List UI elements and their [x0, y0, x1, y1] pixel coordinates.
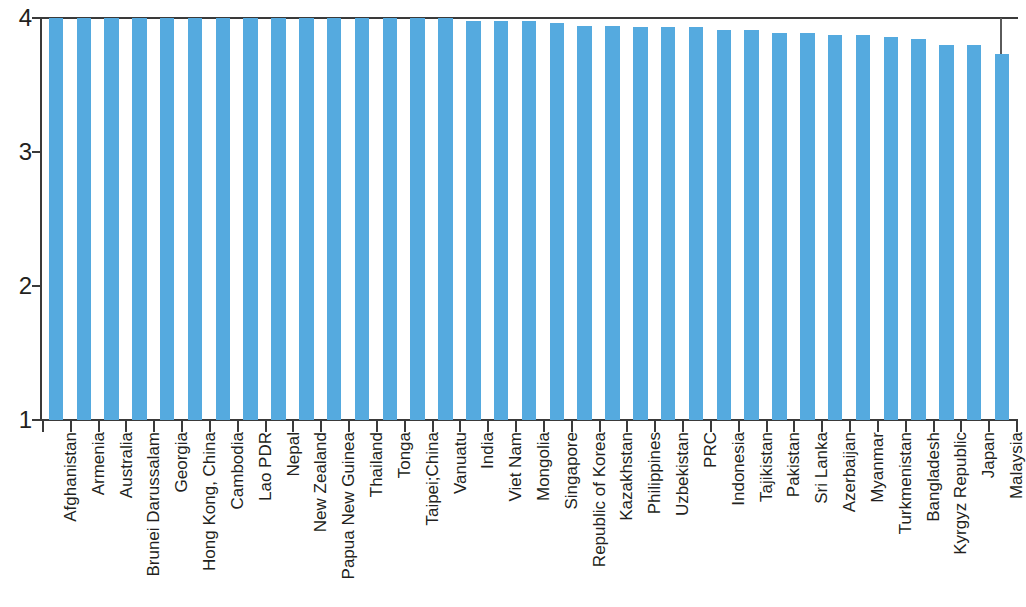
x-tick-mark [849, 421, 851, 432]
x-tick-mark [905, 421, 907, 432]
x-tick-mark [571, 421, 573, 432]
x-tick-mark [738, 421, 740, 432]
x-category-label: Taipei;China [424, 432, 441, 526]
x-category-label: Mongolia [535, 432, 552, 501]
x-category-label: Cambodia [229, 432, 246, 510]
x-category-label: Armenia [90, 432, 107, 495]
bar [689, 27, 703, 420]
x-category-label: Australia [118, 432, 135, 498]
y-tick-label: 3 [19, 140, 32, 164]
x-category-label: Papua New Guinea [340, 432, 357, 579]
bars-layer [42, 18, 1016, 420]
bar [243, 18, 257, 420]
x-category-label: Hong Kong, China [201, 432, 218, 571]
x-tick-mark [1016, 421, 1018, 432]
bar [216, 18, 230, 420]
x-category-label: Japan [980, 432, 997, 478]
x-category-label: Vanuatu [452, 432, 469, 494]
x-tick-mark [237, 421, 239, 432]
x-tick-mark [181, 421, 183, 432]
bar [132, 18, 146, 420]
bar [911, 39, 925, 420]
y-tick-mark [32, 285, 41, 287]
x-category-label: New Zealand [312, 432, 329, 532]
x-category-label: Philippines [646, 432, 663, 514]
x-tick-mark [125, 421, 127, 432]
y-tick-label: 4 [19, 6, 32, 30]
x-category-label: Afghanistan [62, 432, 79, 522]
bar [438, 18, 452, 420]
y-tick-label: 2 [19, 274, 32, 298]
bar [800, 33, 814, 420]
x-tick-mark [432, 421, 434, 432]
x-category-label: Viet Nam [507, 432, 524, 502]
y-tick-mark [32, 151, 41, 153]
x-category-label: PRC [702, 432, 719, 468]
bar [271, 18, 285, 420]
x-axis-category-labels: AfghanistanArmeniaAustraliaBrunei Daruss… [42, 432, 1016, 607]
y-axis-tick-labels: 1234 [0, 0, 36, 440]
x-tick-mark [98, 421, 100, 432]
x-category-label: Nepal [285, 432, 302, 476]
x-tick-mark [543, 421, 545, 432]
y-tick-mark [32, 419, 41, 421]
x-tick-mark [793, 421, 795, 432]
bar [744, 30, 758, 420]
x-tick-mark [988, 421, 990, 432]
x-category-label: India [479, 432, 496, 469]
x-tick-mark [682, 421, 684, 432]
x-category-label: Pakistan [785, 432, 802, 497]
x-category-label: Indonesia [730, 432, 747, 506]
x-category-label: Azerbaijan [841, 432, 858, 512]
bar [383, 18, 397, 420]
bar [661, 27, 675, 420]
y-tick-label: 1 [19, 408, 32, 432]
x-category-label: Brunei Darussalam [145, 432, 162, 577]
x-tick-mark [153, 421, 155, 432]
x-tick-mark [599, 421, 601, 432]
x-tick-mark [487, 421, 489, 432]
bar [104, 18, 118, 420]
bar [299, 18, 313, 420]
bar [49, 18, 63, 420]
bar [494, 21, 508, 420]
bar [188, 18, 202, 420]
x-tick-mark [960, 421, 962, 432]
bar [355, 18, 369, 420]
x-tick-mark [766, 421, 768, 432]
bar [160, 18, 174, 420]
x-tick-mark [42, 421, 44, 432]
x-tick-mark [710, 421, 712, 432]
x-category-label: Thailand [368, 432, 385, 497]
x-tick-mark [654, 421, 656, 432]
plot-area [42, 18, 1016, 420]
bar [327, 18, 341, 420]
y-tick-mark [32, 17, 41, 19]
x-tick-mark [877, 421, 879, 432]
x-category-label: Kazakhstan [618, 432, 635, 521]
bar [466, 21, 480, 420]
x-tick-mark [515, 421, 517, 432]
bar [605, 26, 619, 420]
bar [717, 30, 731, 420]
x-tick-mark [404, 421, 406, 432]
bar [550, 23, 564, 420]
x-category-label: Sri Lanka [813, 432, 830, 504]
x-tick-mark [626, 421, 628, 432]
x-category-label: Bangladesh [925, 432, 942, 522]
x-category-label: Myanmar [869, 432, 886, 503]
bar [522, 21, 536, 420]
bar [410, 18, 424, 420]
x-tick-mark [292, 421, 294, 432]
bar [967, 45, 981, 420]
x-category-label: Turkmenistan [897, 432, 914, 534]
x-category-label: Lao PDR [257, 432, 274, 501]
x-tick-mark [821, 421, 823, 432]
bar [633, 27, 647, 420]
x-tick-mark [320, 421, 322, 432]
x-category-label: Tonga [396, 432, 413, 478]
x-category-label: Kyrgyz Republic [952, 432, 969, 555]
x-category-label: Republic of Korea [591, 432, 608, 567]
x-category-label: Uzbekistan [674, 432, 691, 516]
